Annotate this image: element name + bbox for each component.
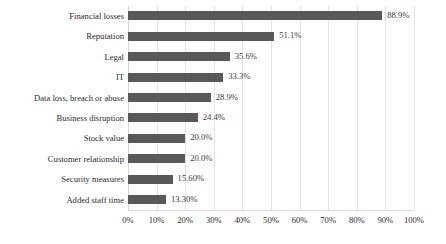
category-label: Financial losses xyxy=(0,6,124,26)
x-tick-label-60: 60% xyxy=(292,213,308,227)
x-tick-label-100: 100% xyxy=(404,213,424,227)
x-tick-label-20: 20% xyxy=(177,213,193,227)
category-label: Security measures xyxy=(0,169,124,189)
bar-value-label: 88.9% xyxy=(387,7,409,24)
bar-value-label: 28.9% xyxy=(216,89,238,106)
bar-row: 15.60% xyxy=(128,169,414,189)
bar-row: 33.3% xyxy=(128,67,414,87)
bar xyxy=(128,154,185,163)
bar-value-label: 35.6% xyxy=(235,48,257,65)
bar-row: 28.9% xyxy=(128,88,414,108)
bar xyxy=(128,32,274,41)
bar-value-label: 15.60% xyxy=(178,170,205,187)
x-tick-label-0: 0% xyxy=(122,213,133,227)
bar xyxy=(128,113,198,122)
bar-row: 35.6% xyxy=(128,47,414,67)
category-label: Added staff time xyxy=(0,190,124,210)
x-axis-line xyxy=(128,210,415,211)
bar xyxy=(128,93,211,102)
bar-rows: 88.9%51.1%35.6%33.3%28.9%24.4%20.0%20.0%… xyxy=(128,6,414,210)
bar-value-label: 13.30% xyxy=(171,191,198,208)
bar xyxy=(128,52,230,61)
category-label: Reputation xyxy=(0,26,124,46)
bar-row: 24.4% xyxy=(128,108,414,128)
x-tick-label-30: 30% xyxy=(206,213,222,227)
bar-row: 88.9% xyxy=(128,6,414,26)
category-label: Data loss, breach or abuse xyxy=(0,88,124,108)
category-label: IT xyxy=(0,67,124,87)
bar xyxy=(128,195,166,204)
x-axis-tick-labels: 0%10%20%30%40%50%60%70%80%90%100% xyxy=(128,213,414,229)
x-tick-label-10: 10% xyxy=(149,213,165,227)
category-label: Legal xyxy=(0,47,124,67)
category-label: Customer relationship xyxy=(0,149,124,169)
category-axis-labels: Financial lossesReputationLegalITData lo… xyxy=(0,6,124,210)
bar-value-label: 33.3% xyxy=(228,68,250,85)
x-tick-label-90: 90% xyxy=(378,213,394,227)
bar-row: 20.0% xyxy=(128,149,414,169)
x-tick-label-40: 40% xyxy=(235,213,251,227)
bar-row: 13.30% xyxy=(128,190,414,210)
gridline-100 xyxy=(414,6,415,210)
horizontal-bar-chart: 88.9%51.1%35.6%33.3%28.9%24.4%20.0%20.0%… xyxy=(0,0,446,244)
bar-row: 20.0% xyxy=(128,128,414,148)
bar xyxy=(128,134,185,143)
category-label: Stock value xyxy=(0,128,124,148)
category-label: Business disruption xyxy=(0,108,124,128)
bar-value-label: 51.1% xyxy=(279,27,301,44)
x-tick-label-70: 70% xyxy=(320,213,336,227)
x-tick-label-50: 50% xyxy=(263,213,279,227)
bar-value-label: 20.0% xyxy=(190,150,212,167)
bar-value-label: 24.4% xyxy=(203,109,225,126)
bar-row: 51.1% xyxy=(128,26,414,46)
x-tick-label-80: 80% xyxy=(349,213,365,227)
bar xyxy=(128,73,223,82)
bar-value-label: 20.0% xyxy=(190,129,212,146)
bar xyxy=(128,175,173,184)
bar xyxy=(128,11,382,20)
plot-area: 88.9%51.1%35.6%33.3%28.9%24.4%20.0%20.0%… xyxy=(128,6,414,210)
